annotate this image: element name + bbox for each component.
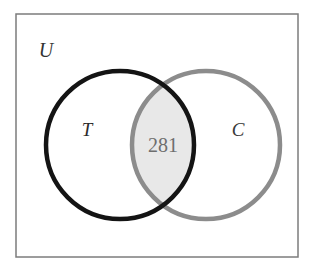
venn-diagram-canvas: U T C 281 [0,0,317,270]
set-label-c: C [232,119,245,140]
set-label-t: T [82,119,94,140]
venn-diagram-figure: U T C 281 [0,0,317,270]
intersection-count-label: 281 [148,134,178,156]
universe-label: U [39,39,55,61]
